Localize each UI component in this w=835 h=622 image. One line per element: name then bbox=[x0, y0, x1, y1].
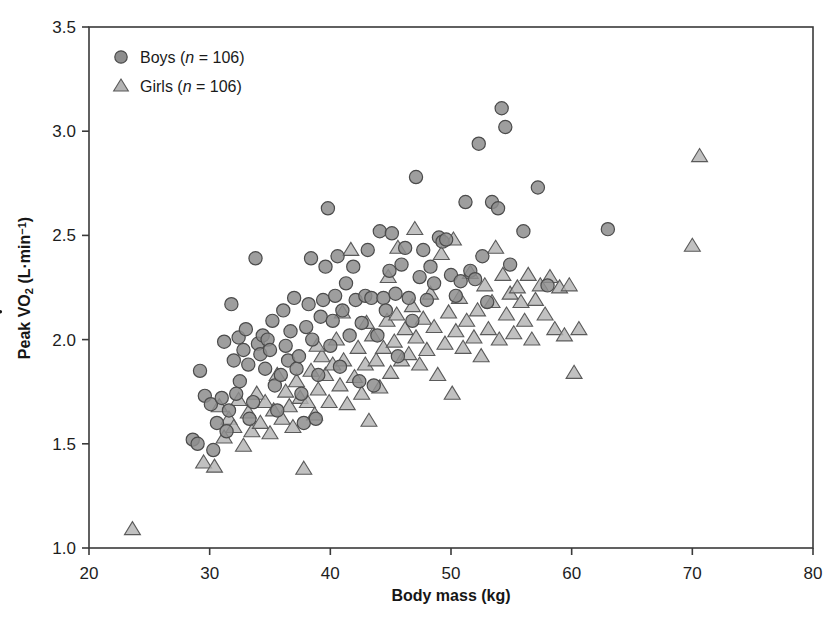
data-point-boys bbox=[469, 273, 482, 286]
data-point-boys bbox=[417, 243, 430, 256]
y-tick-label: 1.5 bbox=[52, 435, 76, 454]
y-tick-label: 3.0 bbox=[52, 122, 76, 141]
y-axis-title-units: (L·min bbox=[16, 235, 33, 288]
data-point-boys bbox=[227, 354, 240, 367]
data-point-boys bbox=[353, 375, 366, 388]
data-point-boys bbox=[242, 358, 255, 371]
x-tick-label: 80 bbox=[804, 564, 823, 583]
data-point-boys bbox=[379, 304, 392, 317]
data-point-boys bbox=[218, 335, 231, 348]
x-tick-label: 40 bbox=[321, 564, 340, 583]
data-point-boys bbox=[343, 329, 356, 342]
legend-label-boys: Boys (n = 106) bbox=[140, 49, 245, 66]
data-point-boys bbox=[449, 289, 462, 302]
data-point-boys bbox=[237, 343, 250, 356]
data-point-girls bbox=[537, 307, 553, 320]
x-axis-title: Body mass (kg) bbox=[391, 587, 510, 604]
data-point-boys bbox=[319, 260, 332, 273]
data-point-boys bbox=[230, 387, 243, 400]
data-point-boys bbox=[321, 202, 334, 215]
data-point-boys bbox=[367, 379, 380, 392]
data-point-boys bbox=[402, 291, 415, 304]
data-point-boys bbox=[279, 339, 292, 352]
data-point-boys bbox=[420, 293, 433, 306]
data-point-girls bbox=[509, 280, 525, 293]
data-point-girls bbox=[684, 238, 700, 251]
legend-label-girls: Girls (n = 106) bbox=[140, 78, 242, 95]
data-point-girls bbox=[473, 349, 489, 362]
data-point-boys bbox=[476, 250, 489, 263]
y-tick-label: 2.0 bbox=[52, 331, 76, 350]
data-point-boys bbox=[373, 225, 386, 238]
x-tick-label: 20 bbox=[80, 564, 99, 583]
svg-text:Peak VO2 (L·min−1): Peak VO2 (L·min−1) bbox=[16, 217, 35, 359]
data-point-boys bbox=[409, 170, 422, 183]
data-point-boys bbox=[481, 295, 494, 308]
x-tick-label: 50 bbox=[442, 564, 461, 583]
legend-marker-boys-circle-icon bbox=[115, 51, 127, 63]
chart-canvas: 203040506070801.01.52.02.53.03.5 Boys (n… bbox=[0, 0, 835, 622]
data-point-girls bbox=[566, 365, 582, 378]
data-point-boys bbox=[326, 314, 339, 327]
data-point-girls bbox=[407, 222, 423, 235]
data-point-boys bbox=[295, 387, 308, 400]
data-point-girls bbox=[437, 336, 453, 349]
data-point-boys bbox=[193, 364, 206, 377]
y-axis-title-prefix: Peak bbox=[16, 317, 33, 359]
data-point-boys bbox=[499, 120, 512, 133]
data-point-boys bbox=[247, 396, 260, 409]
data-point-girls bbox=[430, 367, 446, 380]
data-point-boys bbox=[225, 298, 238, 311]
data-point-girls bbox=[368, 353, 384, 366]
data-point-girls bbox=[499, 307, 515, 320]
data-point-girls bbox=[383, 365, 399, 378]
data-point-boys bbox=[541, 279, 554, 292]
data-point-boys bbox=[288, 291, 301, 304]
data-point-girls bbox=[441, 305, 457, 318]
data-point-boys bbox=[259, 362, 272, 375]
data-point-girls bbox=[419, 342, 435, 355]
data-point-boys bbox=[297, 416, 310, 429]
data-point-boys bbox=[309, 412, 322, 425]
data-point-girls bbox=[321, 394, 337, 407]
data-point-boys bbox=[472, 137, 485, 150]
data-point-boys bbox=[389, 287, 402, 300]
data-point-boys bbox=[395, 258, 408, 271]
data-point-boys bbox=[304, 252, 317, 265]
data-point-girls bbox=[524, 332, 540, 345]
data-point-boys bbox=[215, 391, 228, 404]
data-point-boys bbox=[495, 102, 508, 115]
data-point-girls bbox=[571, 322, 587, 335]
data-point-boys bbox=[383, 264, 396, 277]
data-point-boys bbox=[220, 425, 233, 438]
data-point-boys bbox=[424, 260, 437, 273]
data-point-girls bbox=[235, 438, 251, 451]
data-point-girls bbox=[196, 455, 212, 468]
data-point-girls bbox=[466, 330, 482, 343]
data-point-boys bbox=[391, 350, 404, 363]
chart-legend: Boys (n = 106)Girls (n = 106) bbox=[114, 49, 245, 95]
data-point-girls bbox=[692, 149, 708, 162]
data-point-boys bbox=[233, 375, 246, 388]
scatter-plot-figure: 203040506070801.01.52.02.53.03.5 Boys (n… bbox=[0, 0, 835, 622]
x-tick-label: 60 bbox=[562, 564, 581, 583]
data-point-boys bbox=[207, 443, 220, 456]
data-point-girls bbox=[561, 278, 577, 291]
axis-ticks bbox=[82, 27, 813, 555]
data-point-boys bbox=[355, 316, 368, 329]
data-point-girls bbox=[350, 340, 366, 353]
data-point-boys bbox=[413, 270, 426, 283]
data-point-girls bbox=[339, 397, 355, 410]
y-axis-title: Peak VO2 (L·min−1) bbox=[0, 217, 35, 359]
x-tick-label: 70 bbox=[683, 564, 702, 583]
y-tick-label: 1.0 bbox=[52, 539, 76, 558]
data-point-boys bbox=[504, 258, 517, 271]
data-point-boys bbox=[331, 250, 344, 263]
data-point-boys bbox=[191, 437, 204, 450]
data-point-boys bbox=[306, 333, 319, 346]
data-point-boys bbox=[440, 233, 453, 246]
data-point-boys bbox=[531, 181, 544, 194]
data-point-girls bbox=[506, 326, 522, 339]
y-axis-title-close: ) bbox=[16, 217, 33, 222]
data-point-boys bbox=[239, 323, 252, 336]
